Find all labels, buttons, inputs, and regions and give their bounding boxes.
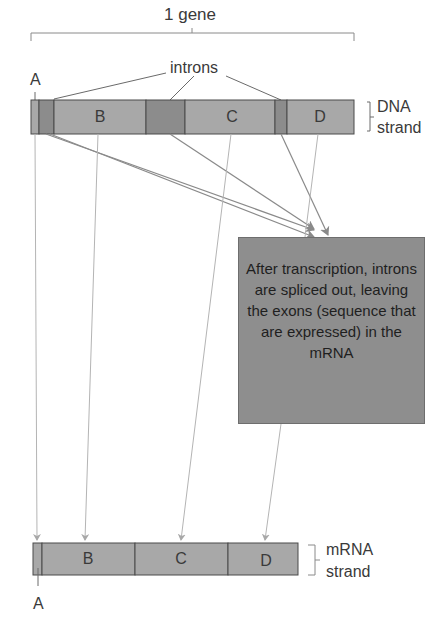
mrna-exon-d-label: D — [260, 553, 272, 569]
splicing-callout-text: After transcription, introns are spliced… — [244, 258, 420, 363]
dna-intron-2 — [146, 100, 185, 134]
intron-removal-arrows — [46, 134, 328, 237]
mrna-strand-label-line1: mRNA — [326, 542, 373, 558]
dna-strand — [31, 100, 354, 134]
mrna-exon-b-label: B — [83, 551, 94, 567]
dna-bracket — [367, 102, 374, 131]
dna-intron-1 — [39, 100, 54, 134]
gene-bracket — [31, 28, 354, 41]
mrna-bracket — [308, 545, 320, 575]
exon-a-bottom-label: A — [33, 596, 44, 612]
mrna-strand — [33, 543, 298, 575]
introns-label: introns — [170, 60, 218, 76]
dna-intron-3 — [275, 100, 287, 134]
intron-leader-lines — [54, 73, 281, 100]
mrna-strand-label-line2: strand — [326, 564, 370, 580]
dna-exon-a — [31, 100, 39, 134]
gene-label: 1 gene — [164, 6, 216, 23]
dna-exon-c-label: C — [226, 109, 238, 125]
splicing-callout-box: After transcription, introns are spliced… — [238, 237, 425, 424]
dna-strand-label-line1: DNA — [377, 99, 411, 115]
exon-a-top-label: A — [30, 72, 41, 88]
dna-exon-b-label: B — [95, 109, 106, 125]
dna-strand-label-line2: strand — [377, 120, 421, 136]
dna-exon-d-label: D — [314, 109, 326, 125]
mrna-exon-c-label: C — [175, 551, 187, 567]
